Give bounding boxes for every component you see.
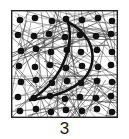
figure-root: 3 [0, 0, 129, 139]
texture-dot [109, 79, 116, 86]
texture-dot [94, 78, 101, 85]
texture-dot [18, 79, 25, 86]
texture-dot [15, 94, 22, 101]
texture-dot [17, 108, 24, 115]
texture-dot [108, 62, 115, 69]
texture-dot [109, 49, 116, 56]
texture-dot [94, 106, 101, 113]
texture-dot [33, 106, 40, 113]
texture-dot [63, 107, 70, 114]
texture-dot [49, 18, 56, 25]
texture-dot [18, 48, 25, 55]
texture-dot [93, 33, 100, 40]
texture-dot [32, 15, 39, 22]
texture-dot [64, 78, 71, 85]
texture-dot [33, 46, 40, 53]
stimulus-panel [11, 10, 118, 118]
figure-caption: 3 [0, 119, 129, 139]
texture-dot [32, 64, 39, 71]
texture-dot [108, 93, 115, 100]
texture-dot [79, 108, 86, 115]
texture-dot [63, 65, 70, 72]
texture-dot [17, 17, 24, 24]
texture-dot [79, 17, 86, 24]
texture-dot [109, 109, 116, 116]
texture-dot [48, 49, 55, 56]
texture-dot [78, 49, 85, 56]
texture-dot [46, 31, 53, 38]
texture-dot [47, 62, 54, 69]
texture-dot [95, 15, 102, 22]
texture-dot [79, 63, 86, 70]
stimulus-canvas [11, 10, 118, 118]
texture-dot [94, 47, 101, 54]
texture-dot [77, 94, 84, 101]
texture-dot [48, 109, 55, 116]
texture-dot [109, 18, 116, 25]
texture-dot [62, 96, 69, 103]
texture-dot [31, 33, 38, 40]
texture-dot [62, 34, 69, 41]
texture-dot [15, 32, 22, 39]
texture-dot [16, 63, 23, 70]
texture-dot [95, 64, 102, 71]
texture-dot [33, 77, 40, 84]
texture-dot [108, 31, 115, 38]
texture-dot [93, 95, 100, 102]
